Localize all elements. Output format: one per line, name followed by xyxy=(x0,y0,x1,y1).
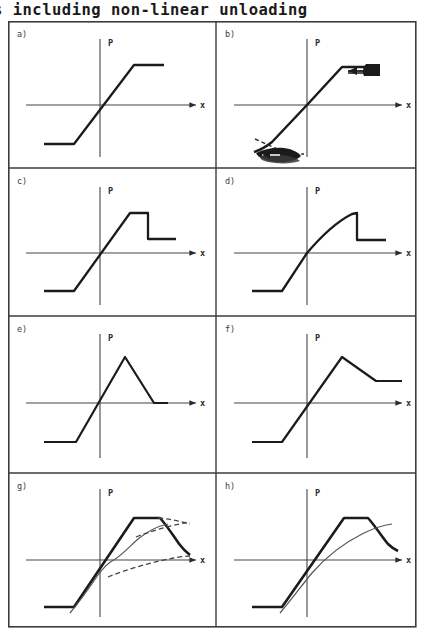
panel-e-x-label: x xyxy=(200,398,205,408)
panel-a: a) P x xyxy=(17,29,205,157)
panel-b-label: b) xyxy=(225,29,235,39)
panel-g-reload-curve xyxy=(70,524,168,613)
panel-c: c) P x xyxy=(17,176,205,305)
panel-h: h) P x xyxy=(225,481,411,617)
panel-g-x-label: x xyxy=(200,555,205,565)
panel-e: e) P x xyxy=(17,324,205,458)
panel-f-axes xyxy=(234,334,402,458)
panel-d: d) P x xyxy=(225,176,411,305)
panel-d-backbone xyxy=(252,213,386,291)
panel-f-x-label: x xyxy=(406,398,411,408)
panel-h-backbone xyxy=(252,518,398,607)
panel-d-x-label: x xyxy=(406,248,411,258)
panel-e-p-label: P xyxy=(108,333,113,343)
panel-f-label: f) xyxy=(225,324,235,334)
panel-f: f) P x xyxy=(225,324,411,458)
panel-h-x-label: x xyxy=(406,555,411,565)
figure-panel-grid: a) P x b) P x c) xyxy=(8,21,417,628)
panel-g-label: g) xyxy=(17,481,27,491)
panel-h-label: h) xyxy=(225,481,235,491)
panel-a-axes xyxy=(26,39,196,157)
panel-d-label: d) xyxy=(225,176,235,186)
panel-e-label: e) xyxy=(17,324,27,334)
panel-b-p-label: P xyxy=(315,38,320,48)
panel-f-p-label: P xyxy=(315,333,320,343)
panel-a-p-label: P xyxy=(108,38,113,48)
panel-c-p-label: P xyxy=(108,186,113,196)
page-bottom-smudge xyxy=(190,630,425,642)
panel-d-p-label: P xyxy=(315,186,320,196)
panel-g-backbone xyxy=(44,518,190,607)
panel-a-x-label: x xyxy=(200,100,205,110)
grid-frame xyxy=(9,22,416,627)
panel-g: g) P x xyxy=(17,481,205,617)
panel-e-backbone xyxy=(44,357,168,442)
panel-h-p-label: P xyxy=(315,488,320,498)
panel-g-p-label: P xyxy=(108,488,113,498)
panel-c-x-label: x xyxy=(200,248,205,258)
panel-f-backbone xyxy=(252,357,402,442)
panel-b: b) P x xyxy=(225,29,411,163)
panel-a-label: a) xyxy=(17,29,27,39)
panel-c-axes xyxy=(26,187,196,305)
panel-e-axes xyxy=(26,334,196,458)
panel-b-backbone xyxy=(254,67,378,152)
panel-d-axes xyxy=(234,187,402,305)
panel-b-x-label: x xyxy=(406,100,411,110)
panel-b-axes xyxy=(234,39,402,157)
panel-g-dashed-lower xyxy=(108,556,190,577)
panel-b-upper-ink-blot xyxy=(363,64,380,76)
panel-c-backbone xyxy=(44,213,176,291)
panel-h-axes xyxy=(234,489,402,617)
page-caption: s including non-linear unloading xyxy=(0,0,425,20)
panel-h-unload-curve xyxy=(280,524,392,613)
panel-c-label: c) xyxy=(17,176,27,186)
